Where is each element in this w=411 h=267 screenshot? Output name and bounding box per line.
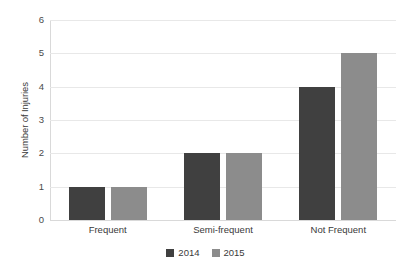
bar — [299, 87, 335, 220]
plot-area — [50, 20, 396, 220]
legend-swatch-icon — [212, 249, 220, 257]
x-axis-category-label: Semi-frequent — [165, 224, 280, 236]
y-axis-tick-label: 6 — [24, 15, 44, 25]
bar — [184, 153, 220, 220]
y-axis-tick-label: 3 — [24, 115, 44, 125]
legend: 20142015 — [0, 248, 411, 258]
gridline — [50, 220, 396, 221]
y-axis-tick-label: 5 — [24, 48, 44, 58]
legend-swatch-icon — [166, 249, 174, 257]
y-axis-tick-label: 4 — [24, 82, 44, 92]
bar-chart: Number of Injuries 0123456 FrequentSemi-… — [0, 0, 411, 267]
bar — [226, 153, 262, 220]
bar — [341, 53, 377, 220]
y-axis-tick-label: 1 — [24, 182, 44, 192]
x-axis-category-label: Frequent — [50, 224, 165, 236]
bar — [69, 187, 105, 220]
y-axis-tick-label: 0 — [24, 215, 44, 225]
legend-label: 2014 — [178, 248, 199, 258]
x-axis-category-label: Not Frequent — [281, 224, 396, 236]
bar — [111, 187, 147, 220]
gridline — [50, 20, 396, 21]
legend-item: 2014 — [166, 248, 199, 258]
legend-item: 2015 — [212, 248, 245, 258]
y-axis-tick-label: 2 — [24, 148, 44, 158]
y-axis-tick-labels: 0123456 — [20, 20, 44, 220]
legend-label: 2015 — [224, 248, 245, 258]
